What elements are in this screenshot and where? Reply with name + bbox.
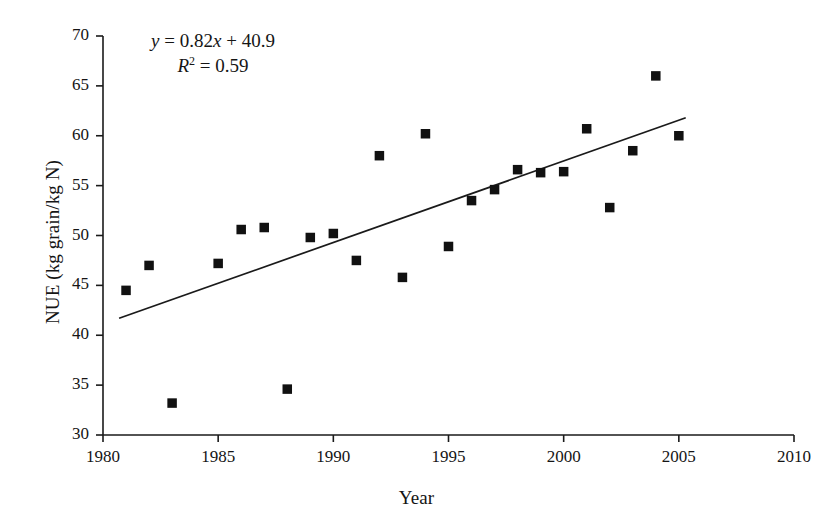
data-point-group <box>121 71 683 408</box>
data-point <box>651 71 661 81</box>
data-point <box>167 398 177 408</box>
data-point <box>259 223 269 233</box>
data-point <box>329 229 339 239</box>
scatter-chart: 706560555045403530 198019851990199520002… <box>0 0 833 525</box>
equation-y-symbol: y <box>151 30 159 51</box>
data-point <box>490 185 500 195</box>
data-point <box>398 273 408 283</box>
data-point <box>444 242 454 252</box>
data-point <box>513 165 523 175</box>
data-point <box>306 233 316 243</box>
r-squared-rest: = 0.59 <box>195 55 248 76</box>
y-axis-title: NUE (kg grain/kg N) <box>42 22 64 462</box>
x-tick-label: 2000 <box>529 447 599 467</box>
data-point <box>536 168 546 178</box>
x-tick-label: 1980 <box>68 447 138 467</box>
r-squared-value: R2 = 0.59 <box>118 53 308 78</box>
x-tick-label: 1985 <box>183 447 253 467</box>
data-point <box>605 203 615 213</box>
data-point <box>674 131 684 141</box>
data-point <box>236 225 246 235</box>
trend-line <box>119 118 686 318</box>
data-point <box>352 256 362 266</box>
data-point <box>582 124 592 134</box>
axis-lines <box>103 36 794 435</box>
data-point <box>283 384 293 394</box>
data-point <box>559 167 569 177</box>
regression-annotation: y = 0.82x + 40.9 R2 = 0.59 <box>118 28 308 78</box>
y-axis-ticks <box>96 36 103 435</box>
x-tick-label: 1995 <box>414 447 484 467</box>
x-tick-label: 2010 <box>759 447 829 467</box>
data-point <box>144 261 154 271</box>
x-tick-label: 2005 <box>644 447 714 467</box>
data-point <box>121 286 130 296</box>
data-point <box>628 146 638 156</box>
data-point <box>467 196 477 206</box>
x-tick-label: 1990 <box>298 447 368 467</box>
equation-body: = 0.82x + 40.9 <box>160 30 275 51</box>
x-axis-title: Year <box>0 487 833 509</box>
r-symbol: R <box>177 55 189 76</box>
data-point <box>421 129 431 139</box>
regression-equation: y = 0.82x + 40.9 <box>118 28 308 53</box>
data-point <box>375 151 385 161</box>
x-axis-ticks <box>103 435 794 442</box>
data-point <box>213 259 223 269</box>
